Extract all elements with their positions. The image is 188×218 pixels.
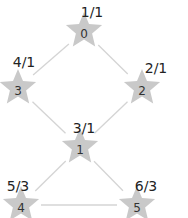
edge-2-1 — [94, 102, 127, 133]
node-label: 4 — [17, 201, 25, 215]
node-label: 5 — [133, 201, 141, 215]
node-label: 1 — [76, 143, 84, 157]
node-3[interactable]: 34/1 — [0, 54, 36, 103]
edge-3-1 — [32, 102, 65, 133]
edge-0-2 — [98, 45, 127, 74]
node-0[interactable]: 01/1 — [66, 4, 103, 46]
node-4[interactable]: 45/3 — [3, 178, 39, 218]
node-1[interactable]: 13/1 — [62, 120, 98, 162]
node-label: 0 — [80, 27, 88, 41]
node-label: 2 — [138, 84, 146, 98]
node-annotation: 6/3 — [135, 178, 158, 194]
node-2[interactable]: 22/1 — [124, 60, 167, 103]
node-label: 3 — [14, 84, 22, 98]
nodes-layer: 01/113/122/134/145/356/3 — [0, 4, 167, 218]
node-annotation: 3/1 — [73, 120, 96, 136]
node-5[interactable]: 56/3 — [119, 178, 157, 218]
edge-1-4 — [35, 161, 65, 191]
node-annotation: 1/1 — [81, 4, 104, 20]
node-annotation: 5/3 — [7, 178, 30, 194]
node-annotation: 4/1 — [13, 54, 36, 70]
edge-1-5 — [94, 161, 123, 190]
node-annotation: 2/1 — [145, 60, 168, 76]
graph-diagram: 01/113/122/134/145/356/3 — [0, 0, 188, 218]
edge-0-3 — [33, 44, 69, 75]
